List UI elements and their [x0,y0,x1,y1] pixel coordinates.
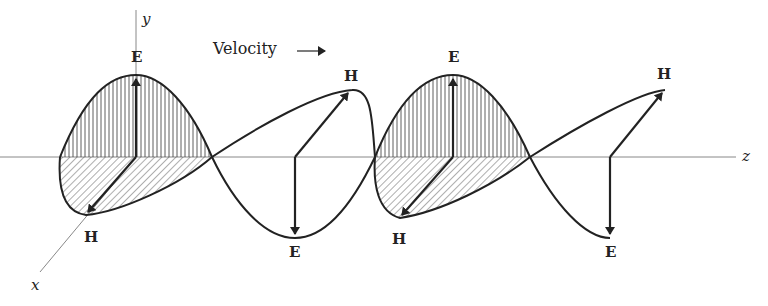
h-lobe-2 [375,157,530,218]
e-label-2: E [289,245,300,260]
e-label-4: E [605,245,616,260]
h-label-1: H [84,230,98,245]
e-label-1: E [131,50,142,65]
x-axis-label: x [31,278,39,293]
velocity-label: Velocity [213,41,277,57]
z-axis-label: z [742,149,750,164]
em-wave-diagram: y x z Velocity E E E E H H H H [0,0,768,306]
y-axis-label: y [142,12,150,27]
h-lobe-1 [60,157,212,215]
h-arrow-2 [295,93,348,157]
wave-drawing [0,0,768,306]
h-label-3: H [392,232,406,247]
h-label-4: H [657,67,671,82]
h-label-2: H [344,69,358,84]
h-arrow-4 [610,93,662,157]
e-label-3: E [448,50,459,65]
